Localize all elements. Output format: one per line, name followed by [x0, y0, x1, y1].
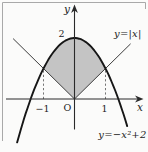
abs-function-label: y=|x| — [113, 28, 141, 40]
y-tick-label-2: 2 — [58, 28, 64, 39]
x-tick-label-1: 1 — [101, 103, 107, 114]
y-axis-label: y — [63, 3, 71, 15]
parabola-function-label: y=−x²+2 — [97, 129, 146, 140]
plot-canvas: y x 2 O −1 1 y=|x| y=−x²+2 — [0, 0, 148, 152]
figure-graph: y x 2 O −1 1 y=|x| y=−x²+2 — [0, 0, 148, 152]
x-axis-label: x — [137, 101, 143, 113]
origin-label: O — [64, 102, 72, 113]
x-tick-label-neg1: −1 — [35, 103, 49, 114]
